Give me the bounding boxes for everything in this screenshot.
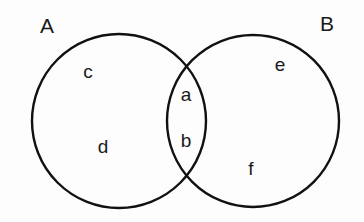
region-label-e: e	[275, 54, 286, 75]
region-label-f: f	[248, 158, 254, 179]
set-circle-b[interactable]	[167, 35, 339, 207]
region-label-c: c	[83, 61, 93, 82]
region-label-b: b	[181, 130, 192, 151]
region-label-a: a	[181, 84, 192, 105]
region-label-d: d	[98, 136, 109, 157]
venn-diagram-canvas: A B c d a b e f	[0, 0, 364, 222]
venn-diagram: A B c d a b e f	[0, 0, 364, 222]
set-label-a: A	[40, 14, 54, 37]
set-label-b: B	[320, 12, 334, 35]
